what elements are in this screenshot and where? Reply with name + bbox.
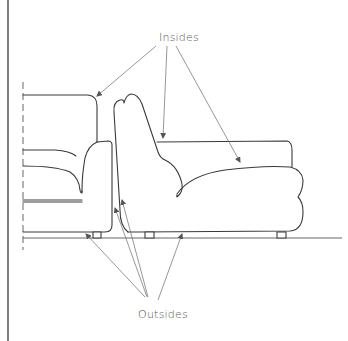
right-sofa-section [114,94,303,238]
insides-label: Insides [159,31,199,44]
insides-leaders [97,46,240,162]
left-sofa-section [23,95,112,238]
outsides-leaders [86,200,182,300]
diagram-drawing [0,0,348,341]
outsides-label: Outsides [138,308,188,321]
sofa-diagram: Insides Outsides [0,0,348,341]
